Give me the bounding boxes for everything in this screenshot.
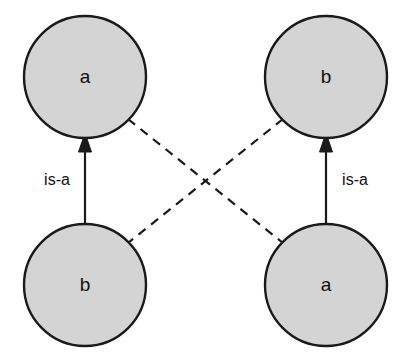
edge-label-left-is-a: is-a — [44, 171, 70, 188]
node-bottom-left: b — [24, 224, 146, 346]
edge-right-is-a: is-a — [320, 133, 368, 224]
edge-left-is-a: is-a — [44, 133, 91, 224]
node-label-top-left: a — [80, 66, 91, 87]
edge-label-right-is-a: is-a — [342, 171, 368, 188]
diagram-canvas: is-a is-a a b b a — [0, 0, 411, 357]
node-top-left: a — [24, 16, 146, 138]
node-top-right: b — [265, 16, 387, 138]
node-bottom-right: a — [265, 224, 387, 346]
node-label-bottom-right: a — [321, 274, 332, 295]
diagram-svg: is-a is-a a b b a — [0, 0, 411, 357]
node-label-bottom-left: b — [80, 274, 91, 295]
node-label-top-right: b — [321, 66, 332, 87]
